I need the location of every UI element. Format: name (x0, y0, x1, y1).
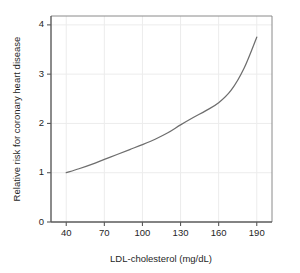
y-axis-title: Relative risk for coronary heart disease (11, 37, 22, 202)
y-tick-label: 1 (39, 166, 44, 177)
x-tick-label: 130 (173, 227, 189, 238)
chart-figure: 01234 4070100130160190 LDL-cholesterol (… (0, 0, 300, 273)
y-tick-label: 0 (39, 216, 44, 227)
y-tick-label: 3 (39, 68, 44, 79)
y-tick-label: 4 (39, 18, 44, 29)
x-tick-label: 40 (61, 227, 72, 238)
x-tick-label: 100 (135, 227, 151, 238)
x-tick-label: 190 (249, 227, 265, 238)
x-tick-label: 160 (211, 227, 227, 238)
y-tick-label: 2 (39, 117, 44, 128)
x-axis-title: LDL-cholesterol (mg/dL) (110, 253, 212, 264)
x-tick-label: 70 (99, 227, 110, 238)
chart-canvas: 01234 4070100130160190 LDL-cholesterol (… (0, 0, 300, 273)
